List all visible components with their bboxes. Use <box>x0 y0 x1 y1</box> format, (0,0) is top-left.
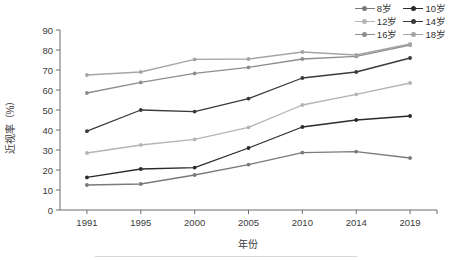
data-point <box>354 93 358 97</box>
data-point <box>354 70 358 74</box>
y-tick-label: 70 <box>42 65 53 76</box>
data-point <box>139 182 143 186</box>
series-line-12岁 <box>87 83 410 153</box>
y-tick-label: 40 <box>42 125 53 136</box>
data-point <box>408 156 412 160</box>
legend-label: 12岁 <box>377 15 398 28</box>
chart-legend: 8岁10岁12岁14岁16岁18岁 <box>355 2 446 41</box>
data-point <box>139 70 143 74</box>
data-point <box>408 42 412 46</box>
data-point <box>247 146 251 150</box>
data-point <box>193 138 197 142</box>
y-tick-label: 80 <box>42 45 53 56</box>
x-tick-label: 1991 <box>76 217 97 228</box>
x-axis: 1991199520002005201020142019 <box>60 210 437 228</box>
data-point <box>354 53 358 57</box>
legend-entry-10岁[interactable]: 10岁 <box>403 2 446 15</box>
legend-label: 14岁 <box>425 15 446 28</box>
x-tick-label: 2010 <box>292 217 313 228</box>
data-point <box>85 151 89 155</box>
legend-marker-icon <box>403 4 423 13</box>
data-point <box>85 91 89 95</box>
y-tick-label: 90 <box>42 25 53 36</box>
x-tick-label: 1995 <box>130 217 151 228</box>
legend-marker-icon <box>355 4 375 13</box>
legend-entry-16岁[interactable]: 16岁 <box>355 28 398 41</box>
y-axis-title: 近视率（%） <box>4 96 16 155</box>
data-point <box>300 125 304 129</box>
series-layer <box>85 42 412 187</box>
data-point <box>247 163 251 167</box>
data-point <box>139 108 143 112</box>
data-point <box>193 110 197 114</box>
data-point <box>408 56 412 60</box>
data-point <box>247 126 251 130</box>
legend-marker-icon <box>403 30 423 39</box>
data-point <box>300 151 304 155</box>
legend-marker-icon <box>355 30 375 39</box>
data-point <box>300 103 304 107</box>
legend-label: 18岁 <box>425 28 446 41</box>
y-tick-label: 20 <box>42 165 53 176</box>
data-point <box>193 72 197 76</box>
legend-marker-icon <box>403 17 423 26</box>
data-point <box>85 176 89 180</box>
data-point <box>139 143 143 147</box>
data-point <box>300 76 304 80</box>
y-tick-label: 60 <box>42 85 53 96</box>
data-point <box>85 73 89 77</box>
data-point <box>139 167 143 171</box>
data-point <box>247 97 251 101</box>
data-point <box>247 57 251 61</box>
legend-label: 8岁 <box>377 2 392 15</box>
x-tick-label: 2005 <box>238 217 259 228</box>
myopia-rate-line-chart: 0102030405060708090 19911995200020052010… <box>0 0 452 260</box>
x-tick-label: 2000 <box>184 217 205 228</box>
data-point <box>85 129 89 133</box>
data-point <box>354 150 358 154</box>
x-axis-title: 年份 <box>238 238 258 250</box>
data-point <box>139 81 143 85</box>
data-point <box>408 81 412 85</box>
data-point <box>354 118 358 122</box>
data-point <box>300 50 304 54</box>
data-point <box>193 58 197 62</box>
y-tick-label: 10 <box>42 185 53 196</box>
y-tick-label: 30 <box>42 145 53 156</box>
legend-entry-18岁[interactable]: 18岁 <box>403 28 446 41</box>
data-point <box>408 114 412 118</box>
footer-divider <box>95 256 357 257</box>
legend-label: 16岁 <box>377 28 398 41</box>
legend-entry-8岁[interactable]: 8岁 <box>355 2 398 15</box>
data-point <box>247 66 251 70</box>
y-tick-label: 50 <box>42 105 53 116</box>
legend-label: 10岁 <box>425 2 446 15</box>
y-tick-label: 0 <box>48 205 53 216</box>
data-point <box>193 166 197 170</box>
y-axis: 0102030405060708090 <box>42 25 60 216</box>
legend-marker-icon <box>355 17 375 26</box>
data-point <box>193 173 197 177</box>
data-point <box>300 57 304 61</box>
legend-entry-14岁[interactable]: 14岁 <box>403 15 446 28</box>
data-point <box>85 183 89 187</box>
series-line-8岁 <box>87 152 410 185</box>
legend-entry-12岁[interactable]: 12岁 <box>355 15 398 28</box>
x-tick-label: 2019 <box>400 217 421 228</box>
x-tick-label: 2014 <box>346 217 367 228</box>
